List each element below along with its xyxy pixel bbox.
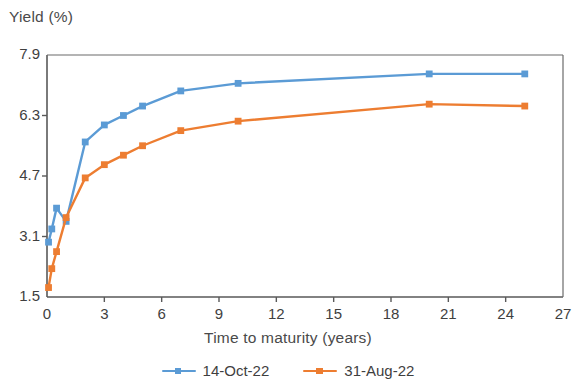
legend-swatch-icon — [303, 365, 337, 377]
data-point-marker — [101, 122, 108, 129]
x-axis-title: Time to maturity (years) — [0, 329, 576, 347]
data-point-marker — [48, 226, 55, 233]
data-point-marker — [177, 88, 184, 95]
legend-entry-2[interactable]: 31-Aug-22 — [303, 362, 414, 379]
axis-lines — [47, 55, 563, 297]
x-axis-tick-label: 27 — [543, 305, 576, 322]
chart-legend: 14-Oct-2231-Aug-22 — [0, 362, 576, 379]
x-axis-tick-label: 9 — [199, 305, 239, 322]
y-axis-tick-label: 1.5 — [0, 287, 40, 304]
series-line — [49, 104, 525, 287]
data-point-marker — [426, 101, 433, 108]
x-axis-tick-label: 6 — [142, 305, 182, 322]
data-point-marker — [235, 118, 242, 125]
data-point-marker — [139, 142, 146, 149]
x-axis-tick-label: 3 — [84, 305, 124, 322]
legend-marker — [175, 368, 182, 375]
data-point-marker — [63, 214, 70, 221]
x-axis-tick-label: 12 — [256, 305, 296, 322]
data-point-marker — [120, 112, 127, 119]
x-axis-tick-label: 0 — [27, 305, 67, 322]
data-point-marker — [53, 248, 60, 255]
y-axis-tick-label: 7.9 — [0, 45, 40, 62]
y-axis-tick-label: 4.7 — [0, 166, 40, 183]
data-point-marker — [521, 71, 528, 78]
legend-label: 14-Oct-22 — [203, 362, 270, 379]
legend-swatch-icon — [162, 365, 196, 377]
data-point-marker — [53, 205, 60, 212]
data-point-marker — [45, 239, 52, 246]
data-series-layer — [45, 71, 528, 291]
data-point-marker — [82, 139, 89, 146]
data-point-marker — [235, 80, 242, 87]
y-axis-tick-label: 3.1 — [0, 227, 40, 244]
legend-entry-1[interactable]: 14-Oct-22 — [162, 362, 270, 379]
data-point-marker — [177, 127, 184, 134]
data-point-marker — [426, 71, 433, 78]
line-chart: Yield (%) 1.53.14.76.37.9 03691215182124… — [0, 0, 576, 386]
legend-label: 31-Aug-22 — [344, 362, 414, 379]
data-point-marker — [45, 284, 52, 291]
data-point-marker — [521, 103, 528, 110]
x-axis-tick-label: 15 — [314, 305, 354, 322]
x-axis-tick-label: 24 — [486, 305, 526, 322]
legend-marker — [316, 368, 323, 375]
data-point-marker — [139, 103, 146, 110]
data-point-marker — [48, 265, 55, 272]
x-axis-tick-label: 21 — [428, 305, 468, 322]
y-axis-tick-label: 6.3 — [0, 106, 40, 123]
data-point-marker — [101, 161, 108, 168]
data-point-marker — [120, 152, 127, 159]
data-point-marker — [82, 174, 89, 181]
series-2 — [45, 101, 528, 291]
x-axis-tick-label: 18 — [371, 305, 411, 322]
